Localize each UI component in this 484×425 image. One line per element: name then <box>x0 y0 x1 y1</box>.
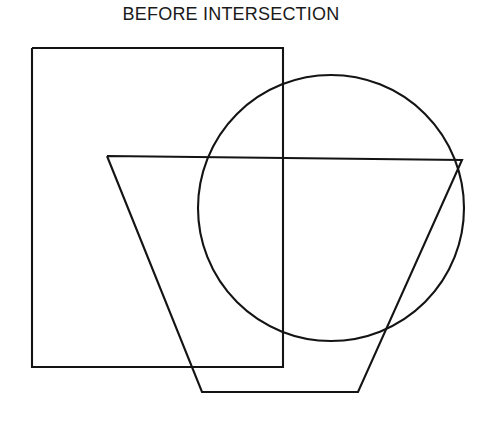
figure-title: BEFORE INTERSECTION <box>123 4 340 24</box>
geometry-figure: BEFORE INTERSECTION <box>0 0 484 425</box>
figure-background <box>0 0 484 425</box>
